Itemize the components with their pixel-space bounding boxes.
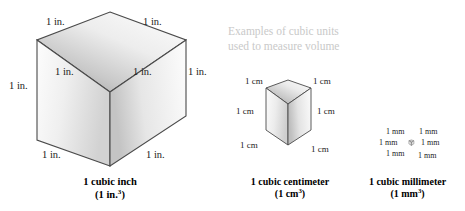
label-inch-left-vertical: 1 in. bbox=[9, 81, 28, 92]
explanatory-note-line2: used to measure volume bbox=[228, 39, 398, 54]
caption-cubic-millimeter-line1: 1 cubic millimeter bbox=[350, 176, 465, 188]
caption-cubic-centimeter: 1 cubic centimeter (1 cm3) bbox=[225, 176, 355, 200]
label-inch-inner-right: 1 in. bbox=[133, 67, 152, 78]
label-cm-left-vertical: 1 cm bbox=[236, 107, 254, 116]
label-mm-top-right: 1 mm bbox=[419, 128, 437, 136]
caption-cubic-centimeter-line1: 1 cubic centimeter bbox=[225, 176, 355, 188]
label-cm-bottom-left: 1 cm bbox=[240, 141, 258, 150]
caption-cubic-millimeter-prefix: (1 mm bbox=[390, 188, 418, 199]
caption-cubic-centimeter-line2: (1 cm3) bbox=[225, 188, 355, 200]
label-mm-top-left: 1 mm bbox=[386, 128, 404, 136]
cubic-inch-cube-graphic bbox=[0, 0, 200, 180]
label-inch-right-vertical: 1 in. bbox=[188, 67, 207, 78]
label-cm-right-vertical: 1 cm bbox=[317, 107, 335, 116]
cubic-units-figure: 1 in. 1 in. 1 in. 1 in. 1 in. 1 in. 1 in… bbox=[0, 0, 465, 211]
caption-cubic-inch-suffix: ) bbox=[121, 189, 125, 200]
caption-cubic-inch: 1 cubic inch (1 in.3) bbox=[40, 176, 180, 202]
label-mm-middle-left: 1 mm bbox=[379, 139, 397, 147]
label-inch-bottom-right: 1 in. bbox=[146, 150, 165, 161]
label-mm-middle-right: 1 mm bbox=[421, 139, 439, 147]
cubic-millimeter-cube-graphic bbox=[408, 139, 420, 151]
caption-cubic-centimeter-suffix: ) bbox=[302, 188, 305, 199]
label-cm-bottom-right: 1 cm bbox=[311, 145, 329, 154]
caption-cubic-millimeter-line2: (1 mm3) bbox=[350, 188, 465, 200]
caption-cubic-millimeter: 1 cubic millimeter (1 mm3) bbox=[350, 176, 465, 200]
label-inch-top-left: 1 in. bbox=[46, 17, 65, 28]
explanatory-note-line1: Examples of cubic units bbox=[228, 24, 398, 39]
label-inch-top-right: 1 in. bbox=[143, 17, 162, 28]
label-mm-bottom-left: 1 mm bbox=[386, 150, 404, 158]
caption-cubic-inch-line1: 1 cubic inch bbox=[40, 176, 180, 189]
explanatory-note: Examples of cubic units used to measure … bbox=[228, 24, 398, 54]
label-inch-bottom-left: 1 in. bbox=[42, 150, 61, 161]
caption-cubic-inch-prefix: (1 in. bbox=[95, 189, 118, 200]
caption-cubic-inch-line2: (1 in.3) bbox=[40, 189, 180, 202]
caption-cubic-centimeter-prefix: (1 cm bbox=[275, 188, 299, 199]
label-inch-inner-left: 1 in. bbox=[55, 67, 74, 78]
label-mm-bottom-right: 1 mm bbox=[418, 152, 436, 160]
label-cm-top-left: 1 cm bbox=[245, 77, 263, 86]
caption-cubic-millimeter-suffix: ) bbox=[421, 188, 424, 199]
label-cm-top-right: 1 cm bbox=[313, 77, 331, 86]
